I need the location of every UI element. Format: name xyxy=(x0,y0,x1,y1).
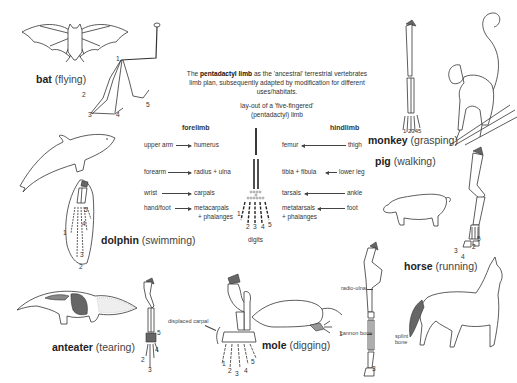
forelimb-bone-metacarpals: metacarpals xyxy=(194,204,229,211)
bat-digit-5: 5 xyxy=(146,101,150,108)
pig-leg-bones xyxy=(455,145,495,250)
hindlimb-common-thigh: thigh xyxy=(348,141,362,148)
bat-label: bat (flying) xyxy=(36,73,86,85)
hindlimb-heading: hindlimb xyxy=(330,124,359,131)
arrow-icon xyxy=(318,208,345,209)
dolphin-digit-2: 2 xyxy=(79,263,83,270)
arrow-icon xyxy=(302,145,346,146)
forelimb-bone-phalanges: + phalanges xyxy=(198,213,233,220)
digit-number-4: 4 xyxy=(261,223,265,230)
digit-number-5: 5 xyxy=(268,221,272,228)
pig-digit-5: 5 xyxy=(477,235,481,242)
mole-label: mole (digging) xyxy=(262,339,330,351)
digit-number-3: 3 xyxy=(253,223,257,230)
intro-text: The pentadactyl limb as the 'ancestral' … xyxy=(182,69,372,96)
hindlimb-common-ankle: ankle xyxy=(347,189,362,196)
radio-ulna-line xyxy=(367,289,373,290)
arrow-icon xyxy=(326,172,337,173)
dolphin-digit-1: 1 xyxy=(63,229,67,236)
anteater-digit-4: 4 xyxy=(155,346,159,353)
forelimb-common-hand-foot: hand/foot xyxy=(144,204,171,211)
arrow-icon xyxy=(305,193,345,194)
arrow-icon xyxy=(168,172,191,173)
arrow-icon xyxy=(176,145,191,146)
dolphin-label: dolphin (swimming) xyxy=(101,234,196,246)
radio-ulna-label: radio-ulna xyxy=(341,285,366,291)
mole-digit-2: 2 xyxy=(228,367,232,374)
bat-digit-4: 4 xyxy=(116,111,120,118)
dolphin-digit-4: 4 xyxy=(82,220,86,227)
arrow-icon xyxy=(162,193,191,194)
pig-illustration xyxy=(380,190,455,230)
mole-illustration xyxy=(250,295,345,335)
horse-leg-bones xyxy=(360,240,390,380)
bat-digit-1: 1 xyxy=(116,55,120,62)
displaced-carpal-label: displaced carpal xyxy=(168,318,208,324)
forelimb-common-upper-arm: upper arm xyxy=(144,141,173,148)
pig-digit-3: 3 xyxy=(454,247,458,254)
pig-digit-2: 2 xyxy=(472,243,476,250)
horse-digit-3: 3 xyxy=(372,365,376,372)
forelimb-common-wrist: wrist xyxy=(144,189,157,196)
bat-wing-bones xyxy=(85,18,165,118)
dolphin-digit-5: 5 xyxy=(84,206,88,213)
anteater-digit-2: 2 xyxy=(141,356,145,363)
layout-caption: lay-out of a 'five-fingered' (pentadacty… xyxy=(222,101,332,119)
pig-label: pig (walking) xyxy=(375,155,436,167)
horse-illustration xyxy=(400,255,515,355)
hindlimb-common-foot: foot xyxy=(347,204,358,211)
anteater-label: anteater (tearing) xyxy=(52,341,135,353)
forelimb-heading: forelimb xyxy=(182,124,210,131)
anteater-digit-5: 5 xyxy=(157,329,161,336)
mole-digit-1: 1 xyxy=(222,360,226,367)
mole-digit-5: 5 xyxy=(251,358,255,365)
forelimb-bone-carpals: carpals xyxy=(194,189,215,196)
mole-digit-3: 3 xyxy=(235,370,239,377)
bat-digit-2: 2 xyxy=(82,91,86,98)
forelimb-bone-radius-ulna: radius + ulna xyxy=(194,168,231,175)
forelimb-bone-humerus: humerus xyxy=(194,141,219,148)
monkey-illustration xyxy=(430,5,517,145)
digits-label: digits xyxy=(248,236,263,243)
hindlimb-common-lower-leg: lower leg xyxy=(339,168,365,175)
monkey-arm-bones xyxy=(398,18,428,133)
anteater-illustration xyxy=(15,280,140,325)
anteater-digit-3: 3 xyxy=(148,366,152,373)
intro-bold-term: pentadactyl limb xyxy=(200,70,252,77)
arrow-icon xyxy=(175,208,191,209)
digit-number-1: 1 xyxy=(237,210,241,217)
forelimb-common-forearm: forearm xyxy=(144,168,166,175)
bat-digit-3: 3 xyxy=(88,111,92,118)
mole-digit-4: 4 xyxy=(244,367,248,374)
cannon-bone-line xyxy=(367,334,372,335)
dolphin-digit-3: 3 xyxy=(80,251,84,258)
mole-foot-digit-1: 1 xyxy=(339,330,343,337)
monkey-label: monkey (grasping) xyxy=(368,134,458,146)
digit-number-2: 2 xyxy=(246,223,250,230)
